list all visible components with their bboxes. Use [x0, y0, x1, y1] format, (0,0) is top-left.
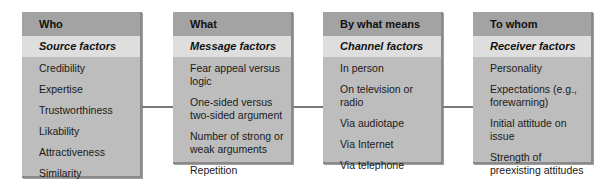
- box-subheader: Channel factors: [323, 36, 441, 57]
- list-item: Similarity: [39, 167, 134, 180]
- list-item: Strength of preexisting attitudes: [490, 151, 585, 177]
- list-item: Via telephone: [340, 159, 435, 172]
- box-subheader: Source factors: [22, 36, 140, 57]
- list-item: Number of strong or weak arguments: [190, 130, 285, 156]
- list-item: Personality: [490, 62, 585, 75]
- list-item: In person: [340, 62, 435, 75]
- list-item: Likability: [39, 125, 134, 138]
- list-item: Expectations (e.g., forewarning): [490, 83, 585, 109]
- box-header: By what means: [323, 12, 441, 36]
- list-item: Repetition: [190, 164, 285, 177]
- channel-factors-box: By what means Channel factors In person …: [323, 12, 443, 164]
- list-item: Credibility: [39, 62, 134, 75]
- message-factors-box: What Message factors Fear appeal versus …: [173, 12, 293, 164]
- list-item: Expertise: [39, 83, 134, 96]
- list-item: One-sided versus two-sided argument: [190, 96, 285, 122]
- receiver-factors-box: To whom Receiver factors Personality Exp…: [473, 12, 593, 164]
- list-item: Initial attitude on issue: [490, 117, 585, 143]
- list-item: Fear appeal versus logic: [190, 62, 285, 88]
- box-header: To whom: [473, 12, 591, 36]
- source-factors-box: Who Source factors Credibility Expertise…: [22, 12, 142, 178]
- list-item: Attractiveness: [39, 146, 134, 159]
- list-item: Trustworthiness: [39, 104, 134, 117]
- box-subheader: Receiver factors: [473, 36, 591, 57]
- box-header: Who: [22, 12, 140, 36]
- arrow-connector: [142, 106, 176, 108]
- box-header: What: [173, 12, 291, 36]
- box-subheader: Message factors: [173, 36, 291, 57]
- list-item: Via Internet: [340, 138, 435, 151]
- list-item: On television or radio: [340, 83, 435, 109]
- list-item: Via audiotape: [340, 117, 435, 130]
